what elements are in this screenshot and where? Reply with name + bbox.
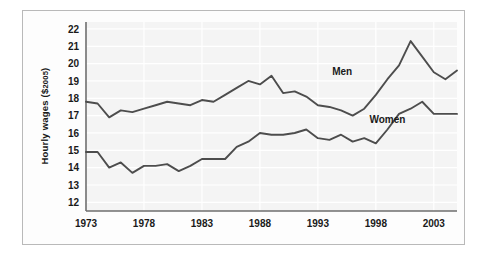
x-tick-label: 1983 — [191, 218, 214, 229]
y-axis-title-main: Hourly wages ( — [39, 93, 50, 164]
y-tick-label: 20 — [68, 58, 80, 69]
x-tick-label: 1988 — [249, 218, 272, 229]
series-label-women: Women — [369, 114, 405, 125]
line-chart: 1213141516171819202122 19731978198319881… — [0, 0, 483, 262]
y-tick-label: 21 — [68, 41, 80, 52]
y-tick-label: 15 — [68, 145, 80, 156]
y-axis-title-text: Hourly wages ($2005) — [39, 68, 50, 165]
y-axis-tick-labels: 1213141516171819202122 — [68, 24, 80, 208]
series-label-men: Men — [332, 66, 352, 77]
y-axis-title: Hourly wages ($2005) — [39, 68, 50, 165]
x-tick-label: 2003 — [423, 218, 446, 229]
y-tick-label: 22 — [68, 24, 80, 35]
x-tick-label: 1973 — [75, 218, 98, 229]
y-tick-label: 13 — [68, 180, 80, 191]
x-tick-label: 1978 — [133, 218, 156, 229]
x-axis-tick-labels: 1973197819831988199319982003 — [75, 218, 445, 229]
chart-figure: 1213141516171819202122 19731978198319881… — [0, 0, 483, 262]
y-axis-title-year: 2005 — [41, 70, 50, 88]
y-axis-title-close: ) — [39, 68, 50, 71]
y-tick-label: 17 — [68, 110, 80, 121]
y-tick-label: 14 — [68, 162, 80, 173]
y-tick-label: 18 — [68, 93, 80, 104]
y-tick-label: 19 — [68, 76, 80, 87]
x-tick-label: 1993 — [307, 218, 330, 229]
y-tick-label: 16 — [68, 128, 80, 139]
x-tick-label: 1998 — [365, 218, 388, 229]
y-tick-label: 12 — [68, 197, 80, 208]
